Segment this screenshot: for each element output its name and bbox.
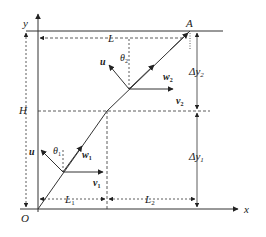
dy2-label: Δy2	[188, 65, 204, 79]
origin-label: O	[21, 212, 29, 224]
L2-label: L2	[144, 193, 155, 207]
v1-label: v1	[93, 177, 100, 189]
x-axis-label: x	[243, 203, 249, 215]
theta1-label: θ1	[53, 145, 61, 157]
H-label: H	[18, 104, 28, 116]
point-A-label: A	[185, 17, 193, 29]
dy1-label: Δy1	[188, 150, 204, 164]
u2-label: u	[100, 56, 106, 67]
L1-label: L1	[64, 193, 75, 207]
u1-label: u	[29, 146, 35, 157]
L-label: L	[107, 32, 114, 44]
w1-vector	[63, 146, 82, 172]
u2-vector	[109, 65, 129, 89]
w2-vector	[129, 65, 154, 89]
trajectory-end-arrow	[170, 33, 188, 50]
w1-label: w1	[82, 149, 92, 161]
v2-label: v2	[176, 95, 183, 107]
trajectory-path	[38, 31, 190, 209]
w2-label: w2	[163, 71, 173, 83]
y-axis-label: y	[22, 17, 28, 29]
diagram-canvas: y x O A L H L1 L2 Δy2 Δy1 u θ1 w1 v1 u θ…	[0, 0, 266, 237]
theta2-label: θ2	[120, 52, 128, 64]
